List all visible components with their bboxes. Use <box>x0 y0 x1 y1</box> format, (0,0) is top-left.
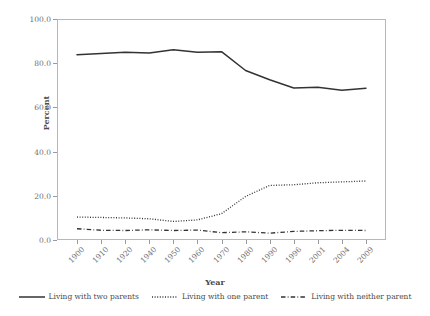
x-tick-mark <box>342 240 343 244</box>
x-tick-mark <box>173 240 174 244</box>
x-tick-mark <box>294 240 295 244</box>
x-tick-mark <box>77 240 78 244</box>
x-tick-mark <box>197 240 198 244</box>
x-tick-mark <box>366 240 367 244</box>
y-tick-label: 20.0 <box>17 191 51 200</box>
x-axis-title: Year <box>0 277 430 287</box>
legend-item[interactable]: Living with one parent <box>152 292 268 301</box>
legend-label: Living with two parents <box>49 292 139 301</box>
y-tick-label: 60.0 <box>17 103 51 112</box>
legend-label: Living with one parent <box>182 292 268 301</box>
data-series-layer <box>57 19 386 240</box>
y-tick-label: 80.0 <box>17 59 51 68</box>
x-tick-mark <box>101 240 102 244</box>
series-line <box>77 229 366 233</box>
legend-swatch-dotted <box>152 293 178 301</box>
line-chart-figure: Percent 0.020.040.060.080.0100.0 1900191… <box>0 0 430 316</box>
legend-item[interactable]: Living with two parents <box>19 292 139 301</box>
legend-swatch-solid <box>19 293 45 301</box>
y-tick-mark <box>53 240 57 241</box>
x-tick-mark <box>318 240 319 244</box>
legend-item[interactable]: Living with neither parent <box>281 292 411 301</box>
legend-swatch-dashdot <box>281 293 307 301</box>
legend-label: Living with neither parent <box>311 292 411 301</box>
y-tick-label: 0.0 <box>17 236 51 245</box>
x-tick-mark <box>222 240 223 244</box>
y-tick-label: 100.0 <box>17 15 51 24</box>
x-tick-mark <box>149 240 150 244</box>
x-tick-mark <box>270 240 271 244</box>
chart-legend: Living with two parentsLiving with one p… <box>0 292 430 301</box>
x-tick-mark <box>246 240 247 244</box>
x-tick-mark <box>125 240 126 244</box>
series-line <box>77 181 366 221</box>
y-tick-label: 40.0 <box>17 147 51 156</box>
series-line <box>77 50 366 90</box>
